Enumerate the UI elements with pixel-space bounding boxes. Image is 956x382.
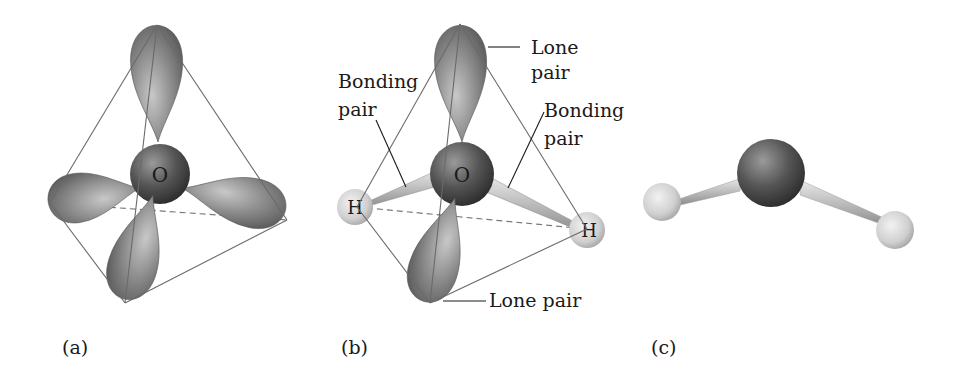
oxygen-atom (737, 139, 805, 207)
bond-right (486, 176, 582, 231)
oxygen-label: O (454, 163, 470, 187)
panel-a: O (a) (44, 25, 290, 358)
label-bonding-pair-right: Bonding pair (544, 99, 630, 149)
bond-left (365, 170, 438, 207)
label-lone-pair-top: Lone pair (531, 36, 585, 83)
bond-left (679, 178, 742, 205)
orbital-lobe-left (44, 164, 143, 227)
label-lone-pair-bottom: Lone pair (489, 289, 582, 311)
caption-b: (b) (341, 336, 368, 358)
caption-a: (a) (62, 336, 88, 358)
lone-pair-lobe-top (434, 25, 488, 143)
label-bonding-pair-left: Bonding pair (338, 70, 424, 120)
oxygen-label: O (152, 163, 168, 187)
panel-c: (c) (643, 139, 914, 358)
orbital-lobe-top (130, 25, 184, 143)
hydrogen-atom-left (643, 183, 681, 221)
lone-pair-lobe-bottom (400, 191, 479, 309)
caption-c: (c) (651, 336, 676, 358)
panel-b: H H O Lone pair Bonding (337, 24, 630, 358)
water-molecule-diagram: O (a) H H O (0, 0, 956, 382)
bond-right (800, 181, 886, 225)
hydrogen-atom-right (876, 211, 914, 249)
